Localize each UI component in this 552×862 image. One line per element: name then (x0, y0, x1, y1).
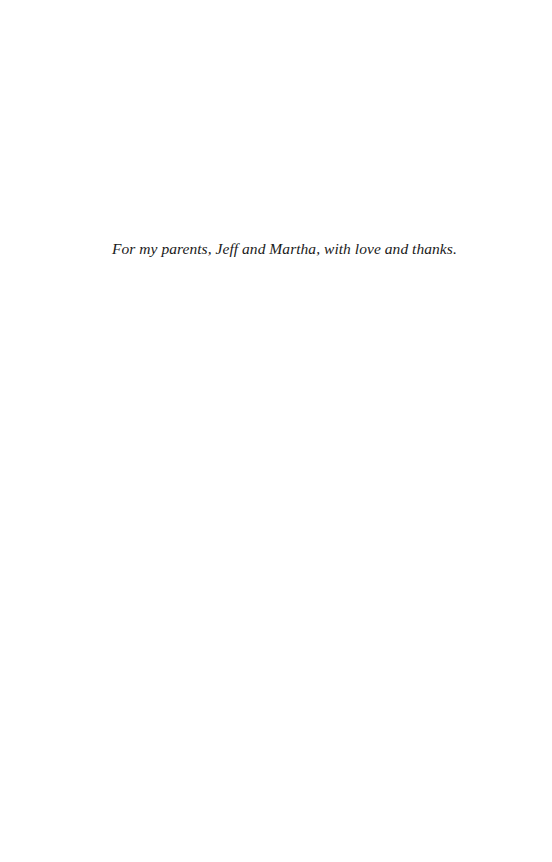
dedication-text: For my parents, Jeff and Martha, with lo… (112, 239, 457, 259)
book-page: For my parents, Jeff and Martha, with lo… (0, 0, 552, 862)
